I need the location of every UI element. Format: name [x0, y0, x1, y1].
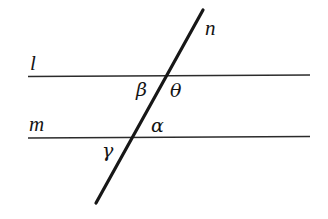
line-m	[28, 137, 310, 139]
angle-label-theta: θ	[170, 81, 181, 100]
angle-label-gamma: γ	[102, 141, 113, 160]
line-n-transversal	[96, 10, 203, 203]
line-label-m: m	[29, 114, 44, 135]
line-label-n: n	[205, 18, 216, 39]
line-label-l: l	[30, 53, 36, 74]
line-l	[28, 75, 310, 77]
figure-canvas	[0, 0, 328, 219]
angle-label-beta: β	[136, 80, 147, 99]
angle-label-alpha: α	[151, 116, 164, 135]
geometry-figure: l m n β θ α γ	[0, 0, 328, 219]
